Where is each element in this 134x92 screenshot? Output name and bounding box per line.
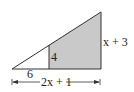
- label-large-height: x + 3: [103, 35, 128, 49]
- arrowhead-left-icon: [12, 80, 18, 84]
- label-large-base: 2x + 1: [41, 75, 72, 89]
- label-small-base: 6: [27, 67, 33, 81]
- similar-triangles-diagram: 4 6 2x + 1 x + 3: [0, 0, 134, 92]
- arrowhead-right-icon: [94, 80, 100, 84]
- label-small-height: 4: [51, 50, 57, 64]
